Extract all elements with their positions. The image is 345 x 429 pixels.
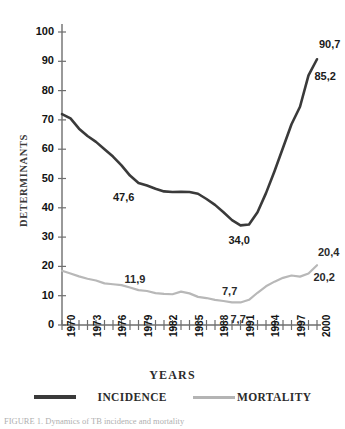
y-tick-label: 10 bbox=[24, 290, 54, 301]
x-tick-label: 1973 bbox=[92, 303, 103, 337]
x-tick-label: 1985 bbox=[194, 303, 205, 337]
legend-label-mortality: MORTALITY bbox=[237, 391, 312, 403]
x-axis-title: YEARS bbox=[0, 368, 345, 383]
x-tick-label: 1997 bbox=[296, 303, 307, 337]
x-tick-label: 1976 bbox=[117, 303, 128, 337]
y-tick-label: 30 bbox=[24, 231, 54, 242]
y-tick-label: 100 bbox=[24, 26, 54, 37]
axes-group bbox=[58, 24, 321, 330]
plot-area: DETERMINANTS 0102030405060708090100 1970… bbox=[0, 0, 345, 345]
data-point-label: 20,4 bbox=[318, 247, 339, 258]
legend-item-incidence: INCIDENCE bbox=[34, 391, 167, 403]
x-tick-label: 2000 bbox=[321, 303, 332, 337]
legend-item-mortality: MORTALITY bbox=[193, 391, 312, 403]
x-tick-label: 1991 bbox=[245, 303, 256, 337]
data-point-label: 7,7 bbox=[222, 286, 237, 297]
y-tick-label: 70 bbox=[24, 114, 54, 125]
legend-label-incidence: INCIDENCE bbox=[98, 391, 167, 403]
y-tick-label: 0 bbox=[24, 319, 54, 330]
chart-figure: DETERMINANTS 0102030405060708090100 1970… bbox=[0, 0, 345, 429]
x-tick-label: 1979 bbox=[143, 303, 154, 337]
data-point-label: 90,7 bbox=[319, 39, 340, 50]
y-tick-label: 40 bbox=[24, 202, 54, 213]
x-tick-label: 1994 bbox=[270, 303, 281, 337]
y-tick-label: 60 bbox=[24, 143, 54, 154]
y-tick-label: 90 bbox=[24, 55, 54, 66]
x-tick-label: 1970 bbox=[66, 303, 77, 337]
y-tick-label: 80 bbox=[24, 85, 54, 96]
data-point-label: 85,2 bbox=[315, 71, 336, 82]
data-point-label: 20,2 bbox=[314, 272, 335, 283]
y-tick-label: 20 bbox=[24, 260, 54, 271]
y-tick-label: 50 bbox=[24, 173, 54, 184]
figure-caption: FIGURE 1. Dynamics of TB incidence and m… bbox=[4, 416, 344, 429]
data-point-label: 47,6 bbox=[113, 192, 134, 203]
data-point-label: 7,7 bbox=[231, 314, 246, 325]
data-point-label: 11,9 bbox=[125, 274, 146, 285]
x-tick-label: 1982 bbox=[168, 303, 179, 337]
x-tick-label: 1988 bbox=[219, 303, 230, 337]
data-point-label: 34,0 bbox=[229, 235, 250, 246]
chart-legend: INCIDENCE MORTALITY bbox=[0, 388, 345, 406]
legend-swatch-incidence-icon bbox=[34, 395, 76, 399]
series-group bbox=[62, 59, 317, 302]
legend-swatch-mortality-icon bbox=[193, 396, 235, 399]
